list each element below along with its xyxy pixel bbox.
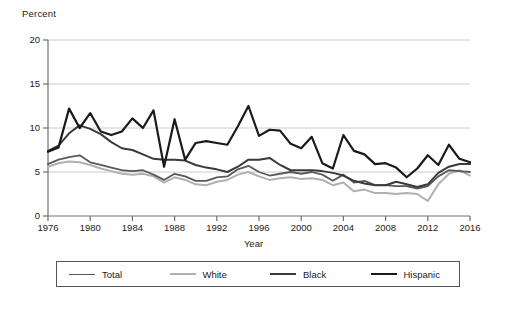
- x-tick-label-1988: 1988: [164, 222, 185, 233]
- y-tick-label-15: 15: [29, 78, 40, 89]
- x-tick-label-1984: 1984: [122, 222, 143, 233]
- legend-label-white: White: [203, 269, 227, 280]
- x-tick-label-2004: 2004: [333, 222, 354, 233]
- legend-swatch-white: [170, 273, 196, 275]
- legend-label-black: Black: [303, 269, 326, 280]
- legend-swatch-hispanic: [371, 273, 397, 275]
- y-tick-label-0: 0: [35, 210, 40, 221]
- x-tick-label-2016: 2016: [459, 222, 480, 233]
- x-tick-label-2008: 2008: [375, 222, 396, 233]
- x-tick-label-1980: 1980: [80, 222, 101, 233]
- legend-item-total[interactable]: Total: [57, 269, 158, 280]
- legend-label-total: Total: [102, 269, 122, 280]
- y-tick-label-10: 10: [29, 122, 40, 133]
- legend-swatch-total: [69, 274, 95, 275]
- legend-item-white[interactable]: White: [158, 269, 259, 280]
- x-tick-label-1992: 1992: [206, 222, 227, 233]
- x-tick-label-2012: 2012: [417, 222, 438, 233]
- y-tick-label-5: 5: [35, 166, 40, 177]
- x-tick-label-2000: 2000: [291, 222, 312, 233]
- legend-item-hispanic[interactable]: Hispanic: [359, 269, 460, 280]
- legend-swatch-black: [270, 273, 296, 275]
- legend-item-black[interactable]: Black: [258, 269, 359, 280]
- chart-figure: Percent 05101520197619801984198819921996…: [0, 0, 507, 312]
- x-axis-title: Year: [0, 238, 507, 249]
- x-tick-label-1976: 1976: [37, 222, 58, 233]
- legend-label-hispanic: Hispanic: [404, 269, 440, 280]
- x-tick-label-1996: 1996: [248, 222, 269, 233]
- chart-legend: Total White Black Hispanic: [56, 261, 460, 287]
- y-tick-label-20: 20: [29, 34, 40, 45]
